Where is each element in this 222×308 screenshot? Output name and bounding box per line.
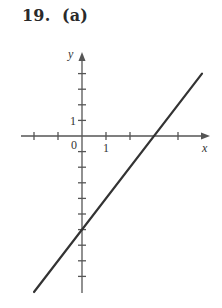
series-line xyxy=(34,74,202,292)
y-tick-label-1: 1 xyxy=(70,114,76,128)
data-series xyxy=(34,74,202,292)
axes xyxy=(21,52,210,293)
x-axis-arrow-icon xyxy=(201,133,210,140)
x-axis-label: x xyxy=(201,141,208,155)
line-graph: y x 1 0 1 xyxy=(0,0,222,308)
x-tick-label-1: 1 xyxy=(103,141,109,155)
origin-label: 0 xyxy=(71,138,77,152)
y-axis-arrow-icon xyxy=(79,52,86,61)
y-axis-label: y xyxy=(67,47,74,61)
axis-labels: y x 1 0 1 xyxy=(67,47,208,155)
axis-ticks xyxy=(34,74,178,277)
